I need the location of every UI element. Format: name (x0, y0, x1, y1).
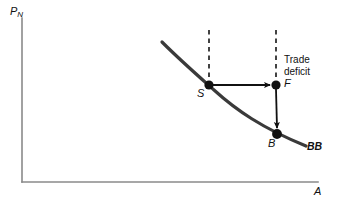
axes-group (22, 18, 318, 182)
arrow-F-to-B (276, 89, 277, 128)
y-axis-label: PN (10, 6, 23, 19)
point-label-S: S (197, 88, 204, 100)
dashed-lines-group (209, 30, 276, 82)
trade-deficit-line-2: deficit (284, 66, 310, 78)
y-axis-label-subscript: N (17, 10, 23, 19)
point-F (271, 80, 280, 89)
arrows-group (211, 85, 277, 128)
curve-label-bb: BB (307, 141, 322, 152)
trade-deficit-line-1: Trade (284, 54, 310, 66)
trade-deficit-annotation: Trade deficit (284, 54, 310, 77)
diagram-canvas (0, 0, 340, 210)
economics-diagram-figure: PN A S F B BB Trade deficit (0, 0, 340, 210)
x-axis-label: A (314, 186, 321, 198)
point-label-F: F (284, 78, 291, 90)
point-S (204, 80, 213, 89)
point-label-B: B (268, 138, 275, 150)
